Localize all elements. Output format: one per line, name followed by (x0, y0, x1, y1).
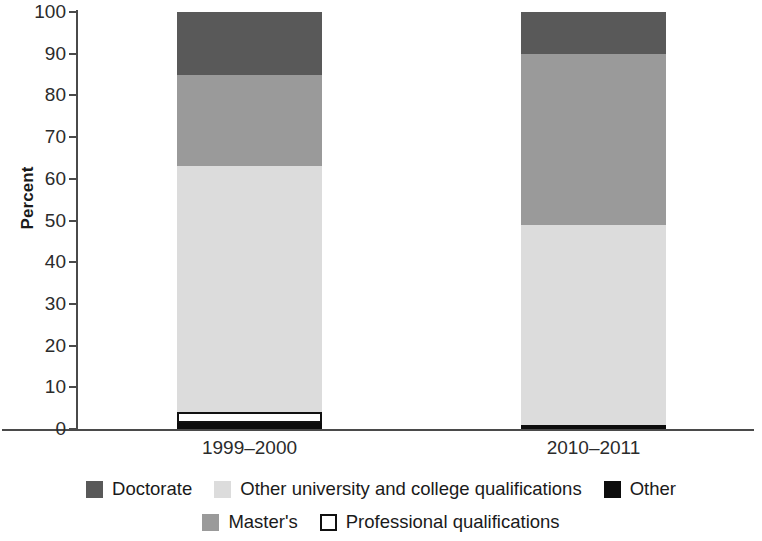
y-axis-tick-label: 50 (0, 210, 66, 232)
y-axis-tick-label: 40 (0, 251, 66, 273)
legend-item[interactable]: Professional qualifications (320, 513, 560, 532)
legend-swatch-icon (320, 514, 337, 531)
bar-segment (521, 12, 666, 54)
legend-row: DoctorateOther university and college qu… (0, 473, 762, 506)
y-axis-title: Percent (18, 138, 38, 258)
legend-swatch-icon (202, 514, 219, 531)
legend-label: Doctorate (112, 480, 192, 499)
y-axis-tick-label: 90 (0, 43, 66, 65)
legend-swatch-icon (214, 481, 231, 498)
legend-label: Professional qualifications (346, 513, 560, 532)
y-axis-tick-mark (69, 53, 77, 55)
y-axis-tick-mark (69, 386, 77, 388)
legend-row: Master'sProfessional qualifications (0, 506, 762, 539)
legend-item[interactable]: Other (604, 480, 676, 499)
y-axis-tick-label: 80 (0, 84, 66, 106)
y-axis-tick-mark (69, 94, 77, 96)
legend-item[interactable]: Doctorate (86, 480, 192, 499)
bar-segment (177, 75, 322, 167)
legend-label: Other university and college qualificati… (240, 480, 581, 499)
stacked-bar-chart: Percent 0102030405060708090100 1999–2000… (0, 0, 762, 541)
legend-item[interactable]: Master's (202, 513, 297, 532)
bar-segment (521, 225, 666, 425)
y-axis-tick-mark (69, 136, 77, 138)
y-axis-tick-label: 60 (0, 168, 66, 190)
legend-label: Other (630, 480, 676, 499)
y-axis-tick-label: 100 (0, 1, 66, 23)
y-axis-tick-mark (69, 303, 77, 305)
bar-segment (177, 166, 322, 412)
legend-swatch-icon (86, 481, 103, 498)
y-axis-tick-mark (69, 428, 77, 430)
y-axis-tick-mark (69, 220, 77, 222)
legend-swatch-icon (604, 481, 621, 498)
x-axis-line (2, 429, 754, 431)
x-axis-label: 2010–2011 (547, 437, 641, 459)
bar-segment (177, 423, 322, 429)
x-axis-label: 1999–2000 (202, 437, 297, 459)
y-axis-tick-mark (69, 261, 77, 263)
y-axis-tick-label: 70 (0, 126, 66, 148)
bar-segment (177, 12, 322, 75)
y-axis-tick-mark (69, 178, 77, 180)
bar-1 (177, 12, 322, 429)
bar-segment (177, 412, 322, 422)
y-axis-tick-label: 20 (0, 335, 66, 357)
y-axis-tick-label: 0 (0, 418, 66, 440)
y-axis-tick-mark (69, 345, 77, 347)
chart-legend: DoctorateOther university and college qu… (0, 473, 762, 539)
y-axis-tick-label: 30 (0, 293, 66, 315)
bar-segment (521, 425, 666, 429)
bar-segment (521, 54, 666, 225)
y-axis-tick-mark (69, 11, 77, 13)
y-axis-tick-label: 10 (0, 376, 66, 398)
legend-item[interactable]: Other university and college qualificati… (214, 480, 581, 499)
bar-2 (521, 12, 666, 429)
legend-label: Master's (228, 513, 297, 532)
